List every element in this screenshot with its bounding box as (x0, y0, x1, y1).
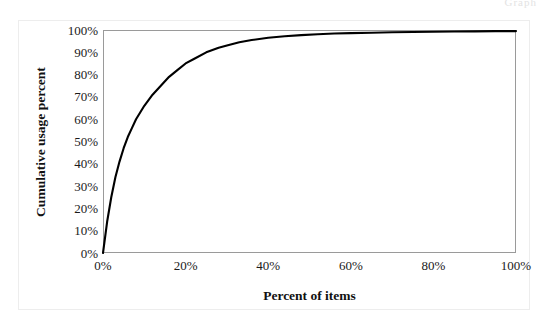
x-axis-title: Percent of items (103, 288, 516, 304)
x-tick-label: 100% (486, 259, 546, 272)
x-tick-label: 40% (238, 259, 298, 272)
x-tick-label: 20% (156, 259, 216, 272)
plot-wrapper: 100%90%80%70%60%50%40%30%20%10%0% 0%20%4… (0, 0, 549, 332)
x-tick-label: 80% (403, 259, 463, 272)
figure-container: Graph 100%90%80%70%60%50%40%30%20%10%0% … (0, 0, 549, 332)
x-tick-label: 60% (321, 259, 381, 272)
x-axis-ticks: 0%20%40%60%80%100% (0, 0, 549, 332)
y-axis-title: Cumulative usage percent (33, 42, 49, 242)
y-axis-title-holder: Cumulative usage percent (0, 0, 1, 1)
x-tick-label: 0% (73, 259, 133, 272)
